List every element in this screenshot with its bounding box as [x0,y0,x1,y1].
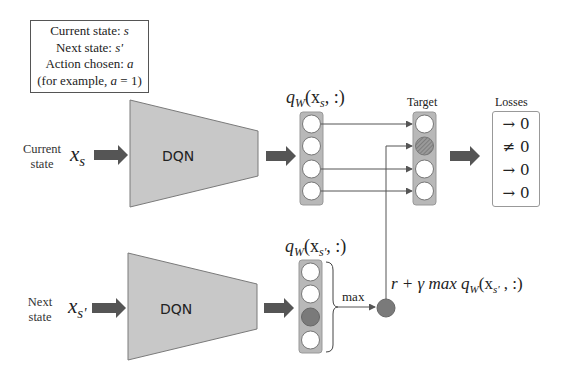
loss-item-2: → 0 [493,161,539,179]
target-node-3 [416,182,434,200]
legend-line-action: Action chosen: a [31,56,148,73]
q-node-top-1 [303,137,321,155]
losses-box: → 0 ≠ 0 → 0 → 0 [492,111,540,207]
output-arrow-icon [266,146,296,166]
legend-line-next-state: Next state: s' [31,40,148,57]
legend-line-example: (for example, a = 1) [31,73,148,90]
target-formula: r + γ max qW(xs' , :) [391,274,523,295]
q-node-top-0 [303,115,321,133]
max-target-node [377,299,395,317]
q-node-bottom-3 [302,331,320,349]
target-node-2 [416,160,434,178]
target-node-0 [416,115,434,133]
legend-box: Current state: s Next state: s' Action c… [30,20,149,93]
legend-line-current-state: Current state: s [31,23,148,40]
input-arrow-icon [94,145,128,165]
brace-icon [326,262,338,352]
input-label-top: xs [69,142,85,169]
q-node-bottom-2-max [302,308,320,326]
q-label-top: qW(xs, :) [286,87,345,110]
dqn-network-bottom [128,253,257,360]
input-arrow-icon [92,298,126,318]
loss-item-1: ≠ 0 [493,138,539,156]
dqn-label-top: DQN [162,148,194,164]
q-node-top-2 [303,160,321,178]
q-node-bottom-0 [302,263,320,281]
target-label: Target [407,95,438,109]
loss-item-0: → 0 [493,115,539,133]
q-node-top-3 [303,182,321,200]
target-node-1-replaced [416,137,434,155]
q-label-bottom: qW(xs', :) [285,236,346,259]
output-arrow-icon [264,298,294,318]
loss-item-3: → 0 [493,184,539,202]
top-branch: DQN [94,100,480,207]
max-label: max [342,289,365,304]
current-state-label: Current state [18,142,66,172]
next-state-label: Next state [20,295,60,325]
dqn-label-bottom: DQN [160,301,192,317]
losses-label: Losses [495,95,528,109]
losses-arrow-icon [450,146,480,166]
input-label-bottom: xs' [67,294,87,321]
q-node-bottom-1 [302,285,320,303]
